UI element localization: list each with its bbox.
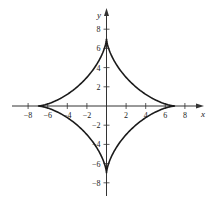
- x-tick-label: −8: [24, 111, 33, 120]
- y-tick-label: 6: [97, 44, 101, 53]
- x-tick-label: −6: [43, 111, 52, 120]
- x-tick-label: 6: [163, 111, 167, 120]
- x-tick-label: −2: [83, 111, 92, 120]
- y-axis-arrow-icon: [104, 8, 109, 16]
- x-axis-label: x: [200, 109, 205, 119]
- y-axis-label: y: [96, 10, 101, 20]
- astroid-chart: −8−6−4−22468−8−6−4−22468 x y: [0, 0, 215, 205]
- y-tick-label: −2: [92, 121, 101, 130]
- y-tick-label: −6: [92, 160, 101, 169]
- chart-canvas: −8−6−4−22468−8−6−4−22468 x y: [0, 0, 215, 205]
- y-tick-label: 2: [97, 83, 101, 92]
- x-tick-label: 2: [124, 111, 128, 120]
- x-tick-label: 8: [183, 111, 187, 120]
- x-axis-arrow-icon: [196, 104, 204, 109]
- y-tick-label: 8: [97, 25, 101, 34]
- y-tick-label: −8: [92, 179, 101, 188]
